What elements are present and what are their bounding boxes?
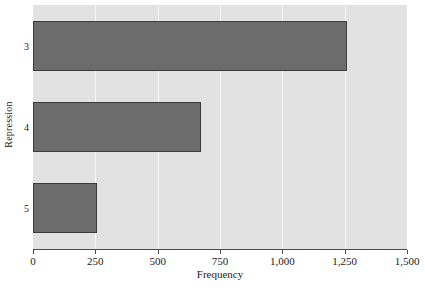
x-tick xyxy=(282,250,283,254)
x-tick-label: 500 xyxy=(149,255,166,267)
y-axis-title-text: Repression xyxy=(3,101,14,147)
y-tick-label: 3 xyxy=(16,40,29,51)
bar xyxy=(33,21,347,71)
x-tick xyxy=(95,250,96,254)
x-tick xyxy=(407,250,408,254)
x-tick-label: 0 xyxy=(30,255,36,267)
x-tick-label: 750 xyxy=(212,255,229,267)
x-tick xyxy=(158,250,159,254)
x-tick-label: 250 xyxy=(87,255,104,267)
x-tick-label: 1,500 xyxy=(395,255,420,267)
plot-area xyxy=(33,5,407,249)
x-tick xyxy=(220,250,221,254)
y-tick-label: 5 xyxy=(16,203,29,214)
x-axis-title: Frequency xyxy=(33,268,407,280)
x-tick-label: 1,000 xyxy=(270,255,295,267)
y-axis-title: Repression xyxy=(0,0,16,249)
x-tick xyxy=(345,250,346,254)
bar-chart: Repression Frequency 34502505007501,0001… xyxy=(0,0,425,292)
y-tick-label: 4 xyxy=(16,122,29,133)
bar xyxy=(33,183,97,233)
x-tick xyxy=(33,250,34,254)
x-tick-label: 1,250 xyxy=(332,255,357,267)
bar xyxy=(33,102,201,152)
